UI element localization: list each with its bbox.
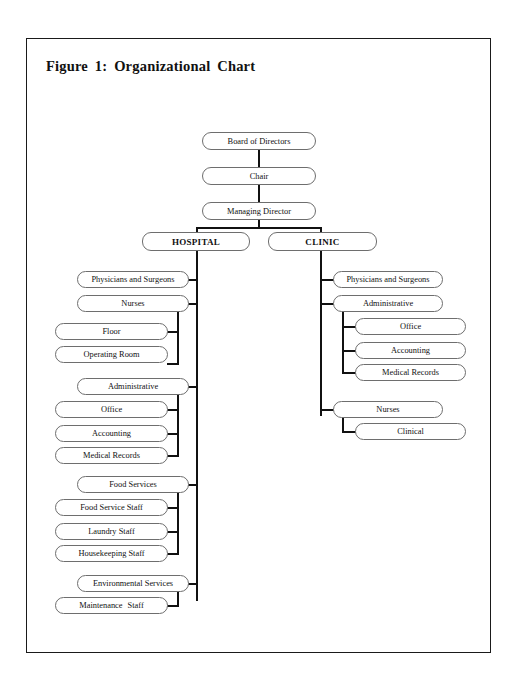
hospital-tick-laundry-staff [167,531,179,533]
organizational-chart: Board of Directors Chair Managing Direct… [0,0,519,692]
node-hospital-floor: Floor [55,323,168,340]
hospital-tick-administrative [188,386,198,388]
node-hospital-maintenance-staff: Maintenance Staff [55,597,168,614]
node-hospital-food-services: Food Services [77,476,189,493]
hospital-tick-accounting [167,433,179,435]
node-clinic-office: Office [355,318,466,335]
hospital-tick-housekeeping-staff [167,553,179,555]
node-hospital-physicians-and-surgeons: Physicians and Surgeons [77,271,189,288]
node-hospital-accounting: Accounting [55,425,168,442]
node-managing-director: Managing Director [202,202,316,220]
node-hospital-laundry-staff: Laundry Staff [55,523,168,540]
document-page: Figure 1: Organizational Chart Board of … [0,0,519,692]
hospital-tick-physicians [188,279,198,281]
node-clinic: CLINIC [268,232,377,251]
connector-md-crossbar [196,227,322,229]
node-clinic-accounting: Accounting [355,342,466,359]
node-chair: Chair [202,167,316,185]
hospital-tick-nurses [188,303,198,305]
node-hospital-food-service-staff: Food Service Staff [55,499,168,516]
clinic-administrative-subspine [342,311,344,374]
clinic-tick-accounting [342,350,356,352]
hospital-administrative-subspine [177,394,179,457]
connector-board-to-chair [258,150,260,167]
node-hospital-medical-records: Medical Records [55,447,168,464]
node-hospital-administrative: Administrative [77,378,189,395]
node-hospital: HOSPITAL [142,232,250,251]
node-hospital-environmental-services: Environmental Services [77,575,189,592]
clinic-spine [320,251,322,416]
node-clinic-clinical: Clinical [355,423,466,440]
hospital-tick-floor [167,331,179,333]
node-clinic-administrative: Administrative [333,295,443,312]
clinic-tick-office [342,326,356,328]
hospital-tick-food-service-staff [167,507,179,509]
hospital-tick-operating-room [167,363,179,365]
node-clinic-physicians-and-surgeons: Physicians and Surgeons [333,271,443,288]
hospital-food-services-subspine [177,492,179,555]
clinic-tick-medical-records [342,372,356,374]
node-hospital-office: Office [55,401,168,418]
hospital-tick-food-services [188,484,198,486]
hospital-tick-office [167,409,179,411]
node-hospital-operating-room: Operating Room [55,346,168,363]
node-hospital-housekeeping-staff: Housekeeping Staff [55,545,168,562]
node-board-of-directors: Board of Directors [202,132,316,150]
hospital-tick-maintenance-staff [167,605,179,607]
hospital-tick-environmental-services [188,583,198,585]
connector-chair-to-managing-director [258,185,260,202]
clinic-tick-clinical [342,431,356,433]
hospital-nurses-subspine [177,311,179,365]
node-hospital-nurses: Nurses [77,295,189,312]
hospital-tick-medical-records [167,455,179,457]
node-clinic-medical-records: Medical Records [355,364,466,381]
node-clinic-nurses: Nurses [333,401,443,418]
